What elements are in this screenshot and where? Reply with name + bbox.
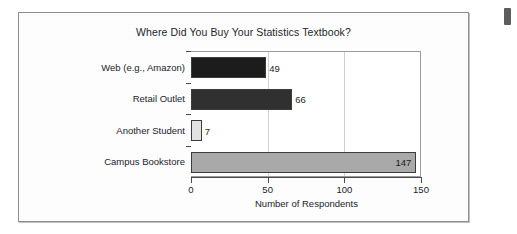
bar-2[interactable]: 66 <box>191 89 292 110</box>
bar-3[interactable]: 7 <box>191 120 202 141</box>
bar-value-label: 49 <box>269 62 280 73</box>
category-label-3: Another Student <box>23 124 185 135</box>
bar-value-label: 66 <box>295 94 306 105</box>
x-axis-tick-label: 150 <box>413 184 429 195</box>
chart-figure: Where Did You Buy Your Statistics Textbo… <box>18 12 469 222</box>
y-axis-tick <box>186 51 191 52</box>
bar-row: 49 <box>191 57 421 78</box>
chart-title: Where Did You Buy Your Statistics Textbo… <box>19 26 468 38</box>
y-axis-tick <box>186 83 191 84</box>
x-axis-tick-label: 50 <box>262 184 273 195</box>
y-axis-tick <box>186 146 191 147</box>
x-axis-tick-label: 0 <box>188 184 193 195</box>
x-axis-tick-label: 100 <box>336 184 352 195</box>
bar-value-label: 7 <box>205 125 210 136</box>
category-label-2: Retail Outlet <box>23 93 185 104</box>
x-axis-tick <box>268 178 269 183</box>
bar-4[interactable]: 147 <box>191 152 416 173</box>
x-axis-tick <box>191 178 192 183</box>
plot-area: 49667147 <box>191 51 421 177</box>
x-axis-title: Number of Respondents <box>191 198 422 209</box>
bar-row: 7 <box>191 120 421 141</box>
bar-value-label: 147 <box>396 157 412 168</box>
x-axis-line <box>191 177 422 178</box>
x-axis-tick <box>344 178 345 183</box>
page-edge-marker <box>504 8 511 25</box>
category-label-4: Campus Bookstore <box>23 156 185 167</box>
x-axis-tick <box>421 178 422 183</box>
bar-1[interactable]: 49 <box>191 57 266 78</box>
y-axis-labels: Web (e.g., Amazon)Retail OutletAnother S… <box>19 51 185 177</box>
bar-row: 147 <box>191 152 421 173</box>
bar-row: 66 <box>191 89 421 110</box>
category-label-1: Web (e.g., Amazon) <box>23 61 185 72</box>
y-axis-tick <box>186 114 191 115</box>
